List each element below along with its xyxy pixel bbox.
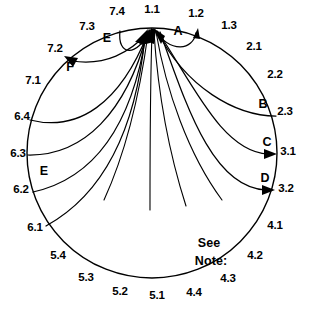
edge-label-A[interactable]: A <box>173 25 182 38</box>
edge-label-B[interactable]: B <box>258 98 267 111</box>
node-label-2-3[interactable]: 2.3 <box>277 106 292 118</box>
edge-E-left-path <box>33 35 146 192</box>
node-label-5-3[interactable]: 5.3 <box>78 272 93 284</box>
node-ring-circle <box>27 28 277 278</box>
node-label-2-2[interactable]: 2.2 <box>267 69 282 81</box>
hub-bundle-strands <box>104 32 222 210</box>
edge-C-arrowhead <box>264 149 277 159</box>
edge-D-path <box>160 32 266 190</box>
node-label-3-1[interactable]: 3.1 <box>280 146 295 158</box>
node-label-7-2[interactable]: 7.2 <box>47 43 62 55</box>
node-label-3-2[interactable]: 3.2 <box>278 183 293 195</box>
edge-A-arrowhead <box>193 28 200 39</box>
node-label-1-2[interactable]: 1.2 <box>188 8 203 20</box>
node-label-5-4[interactable]: 5.4 <box>50 250 65 262</box>
edge-in-6-1-path <box>46 36 145 226</box>
node-label-7-3[interactable]: 7.3 <box>79 21 94 33</box>
node-label-6-1[interactable]: 6.1 <box>27 222 42 234</box>
node-label-6-2[interactable]: 6.2 <box>13 184 28 196</box>
edge-label-D[interactable]: D <box>260 172 269 185</box>
node-label-4-2[interactable]: 4.2 <box>247 250 262 262</box>
edge-in-6-3-path <box>28 34 147 155</box>
circular-flow-diagram: 1.1 1.2 1.3 2.1 2.2 2.3 3.1 3.2 4.1 4.2 … <box>0 0 312 312</box>
see-note-line-1: See <box>198 237 221 250</box>
edge-label-F[interactable]: F <box>66 61 74 74</box>
node-label-4-4[interactable]: 4.4 <box>186 287 201 299</box>
node-label-6-3[interactable]: 6.3 <box>10 148 25 160</box>
see-note-line-2: Note: <box>195 255 227 268</box>
edge-label-E-top[interactable]: E <box>103 32 111 45</box>
node-label-4-1[interactable]: 4.1 <box>267 220 282 232</box>
node-label-7-4[interactable]: 7.4 <box>109 6 124 18</box>
node-label-2-1[interactable]: 2.1 <box>246 41 261 53</box>
node-label-1-3[interactable]: 1.3 <box>221 20 236 32</box>
node-label-1-1[interactable]: 1.1 <box>144 4 159 16</box>
node-label-4-3[interactable]: 4.3 <box>220 273 235 285</box>
edge-label-C[interactable]: C <box>262 136 271 149</box>
hub-strand-1 <box>150 33 152 210</box>
node-label-5-1[interactable]: 5.1 <box>149 290 164 302</box>
node-label-6-4[interactable]: 6.4 <box>14 111 29 123</box>
edge-label-E-left[interactable]: E <box>40 165 48 178</box>
node-label-7-1[interactable]: 7.1 <box>25 75 40 87</box>
node-label-5-2[interactable]: 5.2 <box>112 286 127 298</box>
